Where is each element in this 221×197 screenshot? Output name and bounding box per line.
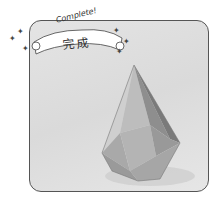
sparkle-icon: ✦ — [116, 48, 123, 56]
sparkle-icon: ✦ — [123, 38, 130, 46]
sparkle-icon: ✦ — [9, 35, 16, 43]
sparkle-icon: ✦ — [113, 27, 120, 35]
sparkle-icon: ✦ — [22, 45, 29, 53]
banner-title: 完成 — [61, 33, 91, 53]
sparkle-icon: ✦ — [17, 28, 24, 36]
